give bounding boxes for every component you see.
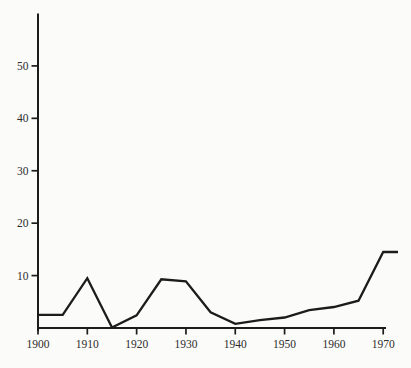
x-tick-label: 1900 <box>27 338 50 350</box>
y-tick-label: 20 <box>17 217 29 229</box>
x-tick-label: 1950 <box>273 338 296 350</box>
line-chart: 1900191019201930194019501960197010203040… <box>0 0 411 368</box>
x-tick-label: 1910 <box>76 338 99 350</box>
x-tick-label: 1940 <box>224 338 247 350</box>
y-tick-label: 30 <box>17 165 29 177</box>
y-tick-label: 40 <box>17 112 29 124</box>
x-tick-label: 1920 <box>125 338 148 350</box>
x-tick-label: 1960 <box>322 338 345 350</box>
data-line <box>38 252 398 328</box>
y-tick-label: 50 <box>17 60 29 72</box>
chart-page: 1900191019201930194019501960197010203040… <box>0 0 411 368</box>
x-tick-label: 1930 <box>174 338 197 350</box>
x-tick-label: 1970 <box>372 338 395 350</box>
y-tick-label: 10 <box>17 270 29 282</box>
